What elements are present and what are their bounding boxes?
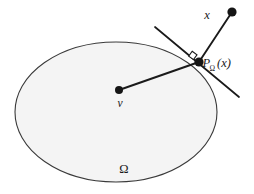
projection-diagram: x v Ω P Ω (x) (0, 0, 254, 194)
label-projection-argument: (x) (217, 56, 231, 70)
label-set-omega: Ω (119, 162, 128, 176)
point-v-dot (115, 86, 123, 94)
point-x-dot (227, 7, 236, 16)
label-point-v: v (117, 97, 123, 109)
right-angle-marker-icon (189, 51, 197, 59)
label-projection-subscript: Ω (210, 64, 216, 73)
convex-set-omega-shape (15, 42, 217, 182)
projection-figure-canvas: x v Ω P Ω (x) (0, 0, 254, 194)
label-point-x: x (203, 8, 210, 22)
